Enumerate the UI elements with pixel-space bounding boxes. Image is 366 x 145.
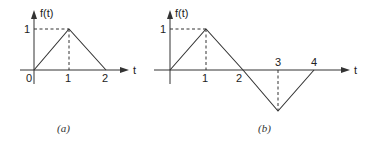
y-axis-label-a: f(t) <box>40 7 53 19</box>
x-axis-arrow-icon <box>120 67 129 73</box>
tick-x1-a: 1 <box>65 72 71 84</box>
x-axis-label-b: t <box>354 64 357 76</box>
tick-x3-b: 3 <box>275 56 281 68</box>
caption-b: (b) <box>258 122 271 135</box>
x-axis-arrow-icon <box>341 67 350 73</box>
y-axis-label-b: f(t) <box>175 7 188 19</box>
origin-label-a: 0 <box>26 72 32 84</box>
panel-b: f(t) t 1 1 2 3 4 (b) <box>154 7 357 135</box>
panel-a: f(t) t 1 0 1 2 (a) <box>20 7 136 135</box>
tick-y1-b: 1 <box>160 23 166 35</box>
tick-x2-a: 2 <box>102 72 108 84</box>
signal-curve-a <box>34 29 106 70</box>
diagram-canvas: f(t) t 1 0 1 2 (a) f(t) t 1 1 2 3 4 (b) <box>0 0 366 145</box>
y-axis-arrow-icon <box>31 10 37 19</box>
x-axis-label-a: t <box>133 64 136 76</box>
tick-x1-b: 1 <box>202 72 208 84</box>
tick-x2-b: 2 <box>236 72 242 84</box>
y-axis-arrow-icon <box>167 10 173 19</box>
tick-y1-a: 1 <box>24 23 30 35</box>
caption-a: (a) <box>57 122 70 135</box>
tick-x4-b: 4 <box>311 56 317 68</box>
